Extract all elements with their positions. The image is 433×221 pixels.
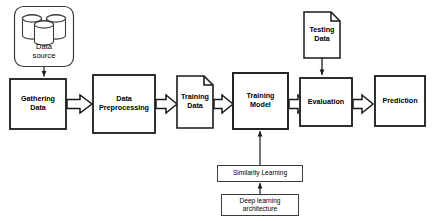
node-training-data[interactable] — [177, 76, 213, 128]
node-data-source[interactable] — [15, 7, 74, 67]
node-data-preprocessing[interactable] — [93, 75, 155, 133]
flow-diagram-canvas: Data source Gathering Data Data Preproce… — [0, 0, 433, 221]
node-evaluation[interactable] — [300, 78, 352, 126]
connector-evaluation-to-prediction — [353, 95, 373, 113]
connector-gathering-data-to-data-preprocessing — [67, 95, 92, 113]
node-prediction[interactable] — [375, 76, 425, 126]
diagram-vector-layer — [0, 0, 433, 221]
node-similarity-learning[interactable] — [218, 166, 303, 182]
connector-data-preprocessing-to-training-data — [156, 95, 177, 113]
node-testing-data[interactable] — [304, 12, 340, 58]
connector-training-data-to-training-model — [214, 95, 233, 113]
node-training-model[interactable] — [233, 73, 288, 129]
node-gathering-data[interactable] — [10, 79, 66, 129]
node-deep-learning-architecture[interactable] — [222, 195, 299, 216]
database-cylinder-front — [35, 21, 54, 45]
